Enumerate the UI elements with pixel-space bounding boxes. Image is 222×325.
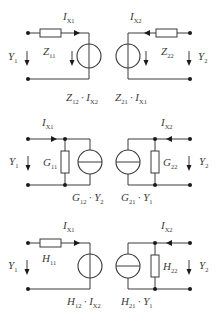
terminal-dot	[26, 77, 30, 81]
node-dot	[63, 137, 67, 141]
voltage-label: Y2	[199, 259, 208, 273]
voltage-label: Y2	[198, 50, 207, 64]
source-expr-label: G12·Y2	[72, 191, 104, 205]
source-expr-label: Z21·IX1	[115, 91, 147, 105]
terminal-dot	[188, 183, 192, 187]
current-label: IX2	[129, 10, 142, 24]
terminal-dot	[188, 77, 192, 81]
node-dot	[153, 241, 157, 245]
voltage-arrow-icon	[25, 269, 30, 275]
current-label: IX1	[62, 10, 75, 24]
current-label: IX1	[41, 116, 54, 130]
terminal-dot	[26, 183, 30, 187]
element-label: G22	[163, 156, 177, 170]
voltage-arrow-icon	[70, 60, 75, 66]
g-circuit-right: IX2 G22 Y2 G21·Y1	[116, 116, 208, 205]
current-label: IX2	[160, 219, 173, 233]
source-expr-label: G21·Y1	[121, 191, 153, 205]
two-port-diagram: IX1 Z11 Y1 Z12·IX2 IX2 Z22 Y2 Z21·IX1	[0, 0, 222, 325]
source-expr-label: H21·Y1	[120, 295, 153, 309]
terminal-dot	[26, 241, 30, 245]
element-label: H11	[41, 252, 56, 266]
terminal-dot	[26, 287, 30, 291]
node-dot	[153, 137, 157, 141]
current-arrow-icon	[166, 240, 172, 246]
element-label: Z11	[43, 45, 55, 59]
voltage-label: Y1	[9, 155, 18, 169]
source-expr-label: Z12·IX2	[66, 91, 98, 105]
g22-resistor	[151, 151, 159, 173]
voltage-arrow-icon	[187, 165, 192, 171]
terminal-dot	[188, 287, 192, 291]
node-dot	[153, 183, 157, 187]
source-expr-label: H12·IX2	[66, 295, 101, 309]
voltage-label: Y1	[8, 50, 17, 64]
current-arrow-icon	[144, 30, 150, 36]
terminal-dot	[26, 31, 30, 35]
h22-resistor	[151, 255, 159, 277]
h-circuit-left: IX1 H11 Y1 H12·IX2	[8, 219, 102, 309]
h11-resistor	[40, 239, 61, 247]
node-dot	[63, 183, 67, 187]
voltage-arrow-icon	[25, 60, 30, 66]
element-label: G11	[43, 156, 57, 170]
terminal-dot	[188, 137, 192, 141]
current-label: IX1	[62, 219, 75, 233]
h-circuit-right: IX2 H22 Y2 H21·Y1	[116, 219, 208, 309]
g-circuit-left: IX1 G11 Y1 G12·Y2	[9, 116, 104, 205]
voltage-label: Y2	[199, 155, 208, 169]
current-arrow-icon	[74, 240, 80, 246]
current-arrow-icon	[74, 30, 80, 36]
g11-resistor	[61, 151, 69, 173]
voltage-label: Y1	[8, 259, 17, 273]
terminal-dot	[188, 241, 192, 245]
node-dot	[153, 287, 157, 291]
voltage-arrow-icon	[26, 165, 31, 171]
element-label: Z22	[161, 45, 174, 59]
z-circuit-right: IX2 Z22 Y2 Z21·IX1	[115, 10, 207, 105]
current-label: IX2	[160, 116, 173, 130]
element-label: H22	[162, 260, 177, 274]
voltage-arrow-icon	[187, 269, 192, 275]
current-arrow-icon	[166, 136, 172, 142]
voltage-arrow-icon	[187, 60, 192, 66]
z-circuit-left: IX1 Z11 Y1 Z12·IX2	[8, 10, 101, 105]
z11-resistor	[40, 29, 61, 37]
terminal-dot	[188, 31, 192, 35]
terminal-dot	[26, 137, 30, 141]
voltage-arrow-icon	[144, 60, 149, 66]
z22-resistor	[156, 29, 177, 37]
current-arrow-icon	[51, 136, 57, 142]
